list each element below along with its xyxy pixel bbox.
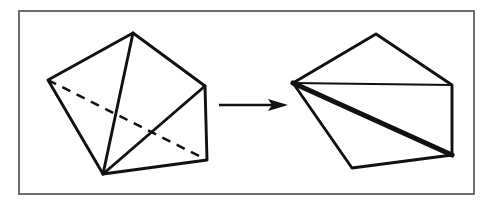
diagram-canvas	[0, 0, 497, 209]
figure-root	[0, 0, 497, 209]
